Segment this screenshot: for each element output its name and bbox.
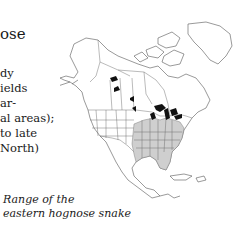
north-america-map-graphic [60, 20, 247, 200]
caption-line-1: Range of the [3, 193, 131, 207]
habitat-line: ields [0, 81, 54, 96]
map-caption: Range of the eastern hognose snake [3, 193, 131, 221]
greenland-outline [188, 22, 232, 64]
species-heading-fragment: ose [0, 25, 26, 43]
habitat-line: to late [0, 126, 54, 141]
range-map [60, 20, 247, 200]
caribbean-islands [170, 174, 206, 182]
central-america [160, 194, 180, 198]
habitat-line: ar- [0, 96, 54, 111]
habitat-line: dy [0, 66, 54, 81]
caption-line-2: eastern hognose snake [3, 207, 131, 221]
arctic-islands-outline [134, 32, 184, 66]
habitat-text-fragment: dy ields ar- al areas); to late North) [0, 66, 54, 156]
habitat-line: al areas); [0, 111, 54, 126]
continent-outline [60, 38, 210, 198]
habitat-line: North) [0, 141, 54, 156]
